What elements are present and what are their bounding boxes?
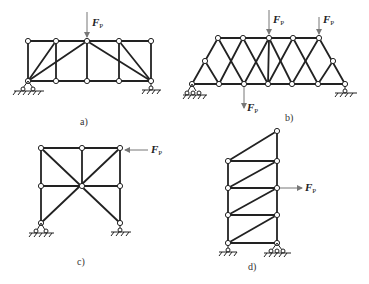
load-arrow-icon: FP	[269, 10, 284, 34]
svg-text:FP: FP	[272, 13, 284, 27]
truss-figure: FP a)	[0, 0, 369, 284]
panel-b-truss: FP FP FP b)	[183, 10, 357, 124]
panel-a-truss: FP a)	[13, 12, 161, 128]
load-arrow-icon: FP	[319, 13, 334, 34]
svg-text:FP: FP	[246, 101, 258, 115]
roller-support-icon	[335, 86, 357, 97]
svg-text:FP: FP	[322, 13, 334, 27]
load-arrow-icon: FP	[244, 87, 258, 115]
pin-support-icon	[183, 84, 207, 99]
roller-support-icon	[111, 225, 131, 236]
load-arrow-icon: FP	[125, 143, 162, 157]
load-arrow-icon: FP	[87, 12, 103, 37]
svg-text:FP: FP	[91, 16, 103, 30]
roller-support-icon	[219, 245, 237, 256]
panel-d-label: d)	[248, 261, 256, 273]
panel-c-truss: FP c)	[29, 143, 162, 268]
panel-b-label: b)	[285, 112, 293, 124]
panel-a-label: a)	[80, 116, 88, 128]
svg-text:FP: FP	[150, 143, 162, 157]
roller-support-icon	[142, 83, 161, 94]
load-arrow-icon: FP	[280, 181, 316, 195]
panel-c-label: c)	[77, 256, 85, 268]
panel-d-truss: FP d)	[219, 128, 316, 273]
svg-text:FP: FP	[304, 181, 316, 195]
